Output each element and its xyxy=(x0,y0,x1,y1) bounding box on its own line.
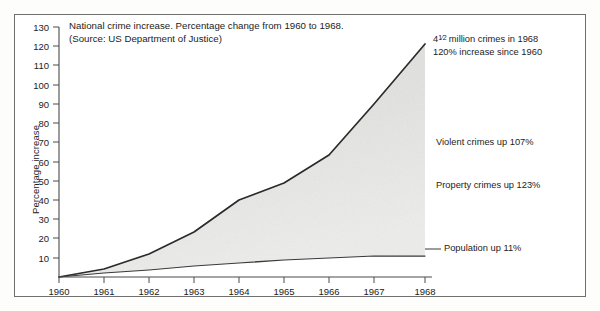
y-tick-label-90: 90 xyxy=(23,99,49,111)
x-tick-label-1962: 1962 xyxy=(131,286,167,298)
y-tick-label-50: 50 xyxy=(23,176,49,188)
crime-area-fill xyxy=(59,44,425,277)
annotation-total-crimes: 41⁄2 million crimes in 1968 xyxy=(433,34,538,46)
annotation-total-crimes-text: million crimes in 1968 xyxy=(446,34,538,44)
annotation-violent-crimes: Violent crimes up 107% xyxy=(436,137,534,149)
y-tick-marks xyxy=(53,27,59,258)
x-tick-label-1964: 1964 xyxy=(221,286,257,298)
y-tick-label-80: 80 xyxy=(23,118,49,130)
chart-figure: Percentage increase 130 120 110 100 90 8… xyxy=(0,0,600,311)
y-tick-label-70: 70 xyxy=(23,137,49,149)
x-tick-label-1965: 1965 xyxy=(266,286,302,298)
y-tick-label-120: 120 xyxy=(23,41,49,53)
chart-title-line-2: (Source: US Department of Justice) xyxy=(69,33,222,45)
x-tick-label-1961: 1961 xyxy=(86,286,122,298)
annotation-property-crimes: Property crimes up 123% xyxy=(436,180,540,192)
y-tick-label-100: 100 xyxy=(23,80,49,92)
x-tick-marks xyxy=(59,277,425,283)
annotation-total-increase: 120% increase since 1960 xyxy=(433,47,542,59)
x-tick-label-1960: 1960 xyxy=(41,286,77,298)
y-tick-label-130: 130 xyxy=(23,22,49,34)
chart-title-line-1: National crime increase. Percentage chan… xyxy=(69,20,344,32)
x-tick-label-1963: 1963 xyxy=(176,286,212,298)
y-tick-label-30: 30 xyxy=(23,214,49,226)
y-tick-label-40: 40 xyxy=(23,195,49,207)
y-tick-label-60: 60 xyxy=(23,157,49,169)
x-tick-label-1968: 1968 xyxy=(407,286,443,298)
x-tick-label-1966: 1966 xyxy=(311,286,347,298)
annotation-population: Population up 11% xyxy=(444,243,521,255)
y-tick-label-20: 20 xyxy=(23,233,49,245)
y-tick-label-10: 10 xyxy=(23,253,49,265)
y-tick-label-110: 110 xyxy=(23,60,49,72)
x-tick-label-1967: 1967 xyxy=(356,286,392,298)
